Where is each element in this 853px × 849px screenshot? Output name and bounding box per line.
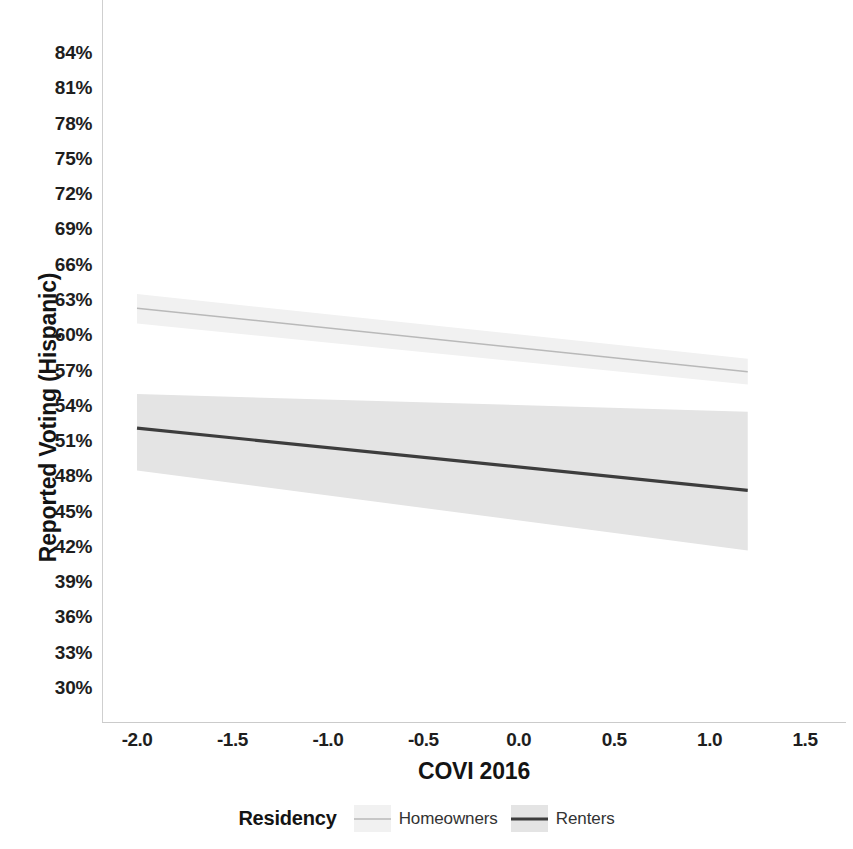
legend-line-homeowners-icon — [354, 816, 391, 821]
legend-key-renters-icon — [511, 805, 548, 832]
x-axis-tick-label: -1.5 — [192, 729, 272, 751]
legend-line-renters-icon — [511, 816, 548, 821]
x-axis-title: COVI 2016 — [102, 758, 846, 785]
x-axis-tick-label: -0.5 — [383, 729, 463, 751]
x-axis-tick-label: 0.0 — [479, 729, 559, 751]
x-axis-tick-label: 1.5 — [765, 729, 845, 751]
x-axis-tick-label: 0.5 — [574, 729, 654, 751]
plot-area — [0, 0, 853, 849]
legend-title: Residency — [238, 807, 336, 830]
confidence-band-renters — [137, 394, 748, 550]
trend-line-homeowners — [137, 308, 748, 372]
legend-label-renters: Renters — [556, 809, 615, 829]
legend: Residency Homeowners Renters — [0, 805, 853, 832]
legend-entry-homeowners[interactable]: Homeowners — [354, 805, 498, 832]
legend-entry-renters[interactable]: Renters — [511, 805, 615, 832]
x-axis-tick-label: -1.0 — [288, 729, 368, 751]
chart-figure: Reported Voting (Hispanic) 84%81%78%75%7… — [0, 0, 853, 849]
x-axis-tick-label: 1.0 — [670, 729, 750, 751]
legend-key-homeowners-icon — [354, 805, 391, 832]
legend-label-homeowners: Homeowners — [399, 809, 498, 829]
x-axis-tick-label: -2.0 — [97, 729, 177, 751]
